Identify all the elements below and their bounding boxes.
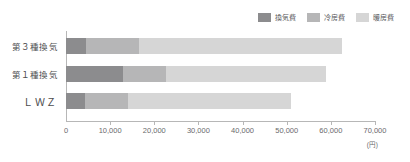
x-axis-tick-20000	[154, 121, 155, 125]
x-axis-tick-30000	[198, 121, 199, 125]
legend-swatch-cooling	[307, 13, 320, 22]
bar-segment	[66, 38, 86, 54]
x-axis-line	[66, 121, 375, 122]
x-axis-tick-50000	[287, 121, 288, 125]
plot-area	[66, 31, 375, 121]
stacked-bar-chart: 換気費 冷房費 暖房費 第３種換気 第１種換気 ＬＷＺ 010,00020,00…	[0, 0, 410, 162]
category-label-2: ＬＷＺ	[0, 94, 58, 109]
category-label-0: 第３種換気	[0, 40, 58, 52]
legend-swatch-ventilation	[258, 13, 271, 22]
x-axis-tick-60000	[331, 121, 332, 125]
bar-row	[66, 66, 326, 82]
x-axis-tick-10000	[110, 121, 111, 125]
x-axis-tick-label-10000: 10,000	[99, 126, 122, 135]
bar-row	[66, 93, 291, 109]
bar-row	[66, 38, 342, 54]
x-axis-tick-label-20000: 20,000	[143, 126, 166, 135]
chart-legend: 換気費 冷房費 暖房費	[258, 13, 394, 22]
legend-label-cooling: 冷房費	[324, 13, 345, 22]
legend-swatch-heating	[356, 13, 369, 22]
x-axis-tick-70000	[375, 121, 376, 125]
bar-segment	[128, 93, 291, 109]
bar-segment	[66, 93, 85, 109]
legend-item-cooling: 冷房費	[307, 13, 345, 22]
bar-segment	[123, 66, 166, 82]
x-axis-unit-label: (円)	[367, 139, 378, 149]
x-axis-tick-label-0: 0	[64, 126, 68, 135]
bar-segment	[166, 66, 326, 82]
x-axis-tick-40000	[243, 121, 244, 125]
legend-label-heating: 暖房費	[373, 13, 394, 22]
category-label-1: 第１種換気	[0, 68, 58, 80]
bar-segment	[86, 38, 139, 54]
legend-item-ventilation: 換気費	[258, 13, 296, 22]
bar-segment	[139, 38, 342, 54]
legend-item-heating: 暖房費	[356, 13, 394, 22]
legend-label-ventilation: 換気費	[275, 13, 296, 22]
x-axis-tick-label-60000: 60,000	[319, 126, 342, 135]
x-axis-tick-label-50000: 50,000	[275, 126, 298, 135]
x-axis-tick-label-70000: 70,000	[364, 126, 387, 135]
x-axis-tick-label-30000: 30,000	[187, 126, 210, 135]
bar-segment	[85, 93, 128, 109]
x-axis-tick-label-40000: 40,000	[231, 126, 254, 135]
bar-segment	[66, 66, 123, 82]
